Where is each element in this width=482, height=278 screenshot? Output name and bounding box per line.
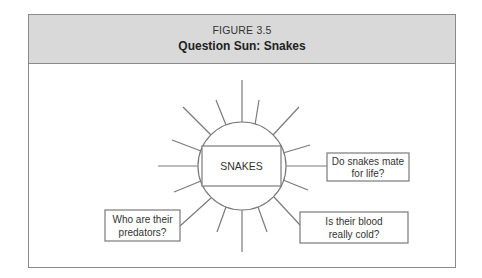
sun-ray [216,100,226,125]
sun-ray [283,180,308,190]
question-2-line-1: Is their blood [325,216,382,227]
sun-ray [217,207,226,232]
sun-ray [183,107,211,135]
sun-ray [174,181,201,192]
topic-label: SNAKES [220,160,263,172]
question-2-line-2: really cold? [329,229,380,240]
question-1-line-1: Do snakes mate [332,156,405,167]
question-sun-diagram: SNAKES Do snakes mate for life? Is their… [0,0,482,278]
sun-ray [255,100,259,125]
question-1-line-2: for life? [352,168,385,179]
sun-ray [283,145,310,153]
question-3-line-2: predators? [119,227,167,238]
sun-ray [258,207,267,232]
sun-ray [273,107,299,135]
question-3-line-1: Who are their [112,214,173,225]
sun-ray-connector [180,198,211,226]
sun-ray [172,140,201,151]
sun-ray-connector [274,197,300,225]
